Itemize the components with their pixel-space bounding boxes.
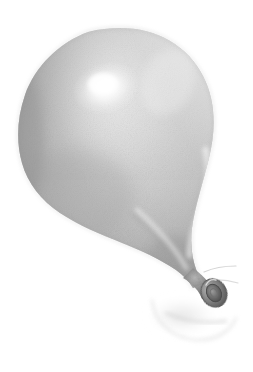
specular-highlight-core [88,73,118,95]
balloon-drawing [0,0,253,372]
artwork-canvas: Pencil drawing of a gray balloon with a … [0,0,253,372]
